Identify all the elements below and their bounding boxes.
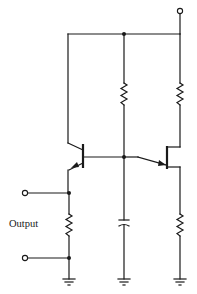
resistor-right-top [177,34,183,147]
ground-icon [63,279,75,285]
transistor-q2 [167,146,180,169]
transistor-q1 [68,143,83,193]
output-label: Output [9,218,38,229]
ground-icon [174,279,186,285]
resistor-right-bottom [177,167,183,279]
circuit-diagram [0,0,197,294]
resistor-middle [121,34,127,157]
capacitor [119,157,129,279]
supply-terminal [177,8,182,34]
output-branch [22,190,72,279]
ground-icon [118,279,130,285]
